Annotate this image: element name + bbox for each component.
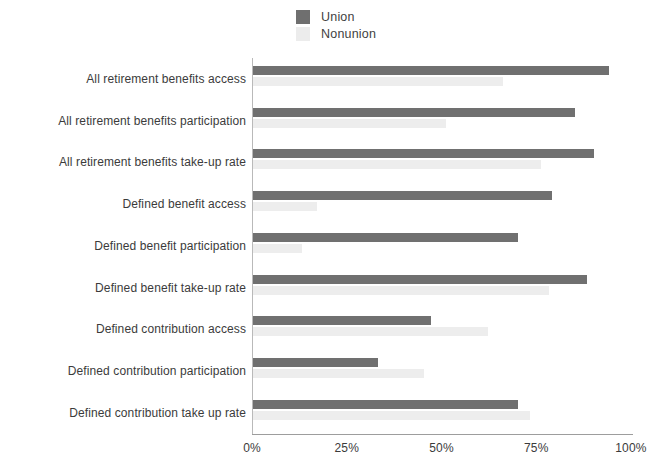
bar-nonunion-0 (253, 77, 503, 86)
bar-union-5 (253, 275, 587, 284)
bar-nonunion-2 (253, 160, 541, 169)
x-axis-tick-2: 50% (429, 441, 454, 455)
bar-nonunion-7 (253, 369, 424, 378)
legend-label-nonunion: Nonunion (321, 27, 376, 41)
bar-nonunion-1 (253, 119, 446, 128)
legend-swatch-icon-union (296, 10, 310, 24)
x-axis-labels: 0% 25% 50% 75% 100% (252, 441, 633, 461)
y-axis-label-5: Defined benefit take-up rate (6, 281, 246, 295)
bar-group-8 (253, 392, 632, 434)
bar-group-7 (253, 350, 632, 392)
bar-group-0 (253, 58, 632, 100)
bar-group-6 (253, 308, 632, 350)
x-axis-tick-0: 0% (243, 441, 261, 455)
bar-union-1 (253, 108, 575, 117)
bar-union-4 (253, 233, 518, 242)
bar-nonunion-8 (253, 411, 530, 420)
chart-legend: Union Nonunion (296, 8, 496, 42)
y-axis-label-0: All retirement benefits access (6, 72, 246, 86)
bar-union-7 (253, 358, 378, 367)
plot-area (252, 58, 632, 434)
y-axis-label-1: All retirement benefits participation (6, 114, 246, 128)
y-axis-label-7: Defined contribution participation (6, 364, 246, 378)
legend-swatch-icon-nonunion (296, 27, 310, 41)
bar-union-3 (253, 191, 552, 200)
y-axis-labels: All retirement benefits access All retir… (0, 58, 246, 434)
x-axis-tick-1: 25% (334, 441, 359, 455)
bar-union-6 (253, 316, 431, 325)
bar-union-8 (253, 400, 518, 409)
bar-nonunion-5 (253, 286, 549, 295)
bar-group-3 (253, 183, 632, 225)
bar-nonunion-4 (253, 244, 302, 253)
y-axis-label-3: Defined benefit access (6, 197, 246, 211)
bar-union-2 (253, 149, 594, 158)
bar-group-4 (253, 225, 632, 267)
y-axis-label-8: Defined contribution take up rate (6, 406, 246, 420)
legend-item-union: Union (296, 8, 496, 25)
chart-container: Union Nonunion All retirement benefits a… (0, 0, 651, 472)
bar-nonunion-3 (253, 202, 317, 211)
bar-group-5 (253, 267, 632, 309)
x-axis-tick-3: 75% (524, 441, 549, 455)
legend-label-union: Union (321, 10, 355, 24)
bar-union-0 (253, 66, 609, 75)
y-axis-label-2: All retirement benefits take-up rate (6, 155, 246, 169)
bar-nonunion-6 (253, 327, 488, 336)
y-axis-label-6: Defined contribution access (6, 322, 246, 336)
bar-group-2 (253, 141, 632, 183)
y-axis-label-4: Defined benefit participation (6, 239, 246, 253)
legend-item-nonunion: Nonunion (296, 25, 496, 42)
x-axis-tick-4: 100% (615, 441, 647, 455)
bar-group-1 (253, 100, 632, 142)
x-axis-line (252, 434, 633, 435)
